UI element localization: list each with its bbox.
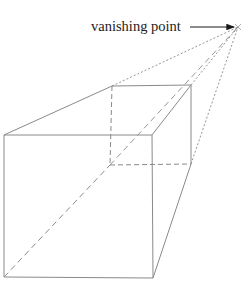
back-face bbox=[110, 85, 191, 165]
receding-edges bbox=[4, 85, 191, 278]
construction-lines bbox=[110, 27, 238, 165]
vanishing-point-label: vanishing point bbox=[91, 18, 181, 34]
front-face bbox=[4, 135, 153, 278]
perspective-diagram: vanishing point bbox=[0, 0, 248, 286]
